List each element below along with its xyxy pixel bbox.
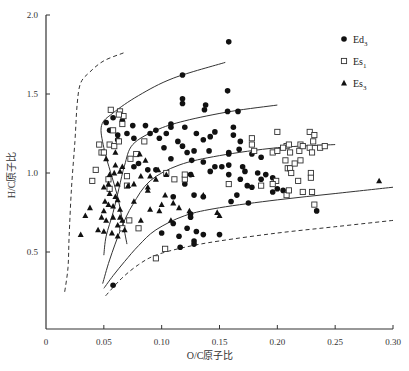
data-point-es1 <box>136 226 141 231</box>
data-point-es1 <box>124 174 129 179</box>
data-point-es1 <box>120 121 125 126</box>
data-point-es3 <box>101 228 107 234</box>
data-point-es1 <box>289 170 294 175</box>
type-I-II-curve <box>104 105 278 255</box>
data-point-es1 <box>312 202 317 207</box>
y-tick-label: 1.0 <box>27 168 39 178</box>
legend-label: Ed3 <box>353 34 368 48</box>
data-point-es3 <box>138 173 144 179</box>
data-point-ed3 <box>258 177 264 183</box>
x-tick-label: 0.10 <box>154 337 170 347</box>
data-point-ed3 <box>177 244 183 250</box>
data-point-ed3 <box>189 158 195 164</box>
data-point-ed3 <box>103 120 109 126</box>
data-point-ed3 <box>212 129 218 135</box>
data-point-es1 <box>93 167 98 172</box>
x-tick-label: 0 <box>44 337 49 347</box>
data-point-es1 <box>128 156 133 161</box>
data-point-ed3 <box>226 39 232 45</box>
data-point-ed3 <box>246 200 252 206</box>
data-point-ed3 <box>124 131 130 137</box>
data-point-es3 <box>200 192 206 198</box>
data-point-es1 <box>281 145 286 150</box>
data-point-es3 <box>117 206 123 212</box>
data-point-es3 <box>103 156 109 162</box>
data-point-ed3 <box>255 170 261 176</box>
data-point-ed3 <box>219 164 225 170</box>
data-point-ed3 <box>191 241 197 247</box>
data-point-ed3 <box>188 214 194 220</box>
data-point-ed3 <box>180 143 186 149</box>
data-point-es1 <box>116 139 121 144</box>
data-point-ed3 <box>110 115 116 121</box>
data-point-es1 <box>182 172 187 177</box>
data-point-ed3 <box>201 159 207 165</box>
data-point-ed3 <box>136 161 142 167</box>
data-point-es1 <box>286 142 291 147</box>
data-point-ed3 <box>175 139 181 145</box>
data-point-es1 <box>275 129 280 134</box>
y-tick-label: 1.5 <box>27 89 39 99</box>
legend-marker-es1 <box>341 58 346 63</box>
data-point-ed3 <box>263 172 269 178</box>
data-point-es1 <box>298 158 303 163</box>
data-point-ed3 <box>180 72 186 78</box>
data-point-ed3 <box>202 107 208 113</box>
data-point-es3 <box>112 149 118 155</box>
data-point-es3 <box>103 217 109 223</box>
data-point-es1 <box>259 183 264 188</box>
data-point-ed3 <box>217 232 223 238</box>
data-point-es1 <box>153 256 158 261</box>
data-point-es3 <box>112 162 118 168</box>
data-point-ed3 <box>159 230 165 236</box>
data-point-ed3 <box>270 189 276 195</box>
data-point-ed3 <box>143 123 149 129</box>
data-point-ed3 <box>226 172 232 178</box>
data-point-ed3 <box>131 164 137 170</box>
data-point-ed3 <box>131 135 137 141</box>
data-point-ed3 <box>130 123 136 129</box>
data-point-es3 <box>87 205 93 211</box>
data-point-es1 <box>101 150 106 155</box>
data-point-es1 <box>116 112 121 117</box>
data-point-es1 <box>311 139 316 144</box>
legend-label: Es1 <box>353 56 367 70</box>
data-point-es1 <box>142 139 147 144</box>
data-point-ed3 <box>168 156 174 162</box>
data-point-es3 <box>95 227 101 233</box>
data-point-es3 <box>138 217 144 223</box>
data-point-ed3 <box>163 131 169 137</box>
data-point-es1 <box>322 144 327 149</box>
data-point-ed3 <box>184 150 190 156</box>
data-point-es3 <box>78 231 84 237</box>
data-point-es3 <box>101 208 107 214</box>
data-point-es3 <box>170 200 176 206</box>
scatter-chart: 00.050.100.150.200.250.30 0.51.01.52.0 O… <box>0 0 409 371</box>
data-point-es1 <box>226 181 231 186</box>
data-point-es3 <box>101 184 107 190</box>
data-point-es3 <box>176 205 182 211</box>
data-point-ed3 <box>201 137 207 143</box>
x-tick-label: 0.05 <box>96 337 112 347</box>
data-point-es3 <box>109 230 115 236</box>
data-point-ed3 <box>226 162 232 168</box>
data-point-es1 <box>309 189 314 194</box>
data-point-es1 <box>286 188 291 193</box>
data-point-ed3 <box>234 192 240 198</box>
y-tick-label: 2.0 <box>27 10 39 20</box>
data-point-es3 <box>102 198 108 204</box>
data-point-ed3 <box>180 101 186 107</box>
legend-marker-es3 <box>341 80 347 86</box>
data-point-ed3 <box>226 151 232 157</box>
data-point-es1 <box>90 178 95 183</box>
data-point-es1 <box>249 136 254 141</box>
data-point-es1 <box>283 158 288 163</box>
data-point-es1 <box>275 148 280 153</box>
data-point-ed3 <box>170 194 176 200</box>
data-point-ed3 <box>231 124 237 130</box>
data-point-es1 <box>127 218 132 223</box>
x-tick-label: 0.20 <box>269 337 285 347</box>
data-points <box>78 39 382 288</box>
data-point-ed3 <box>240 164 246 170</box>
data-point-ed3 <box>225 109 231 115</box>
